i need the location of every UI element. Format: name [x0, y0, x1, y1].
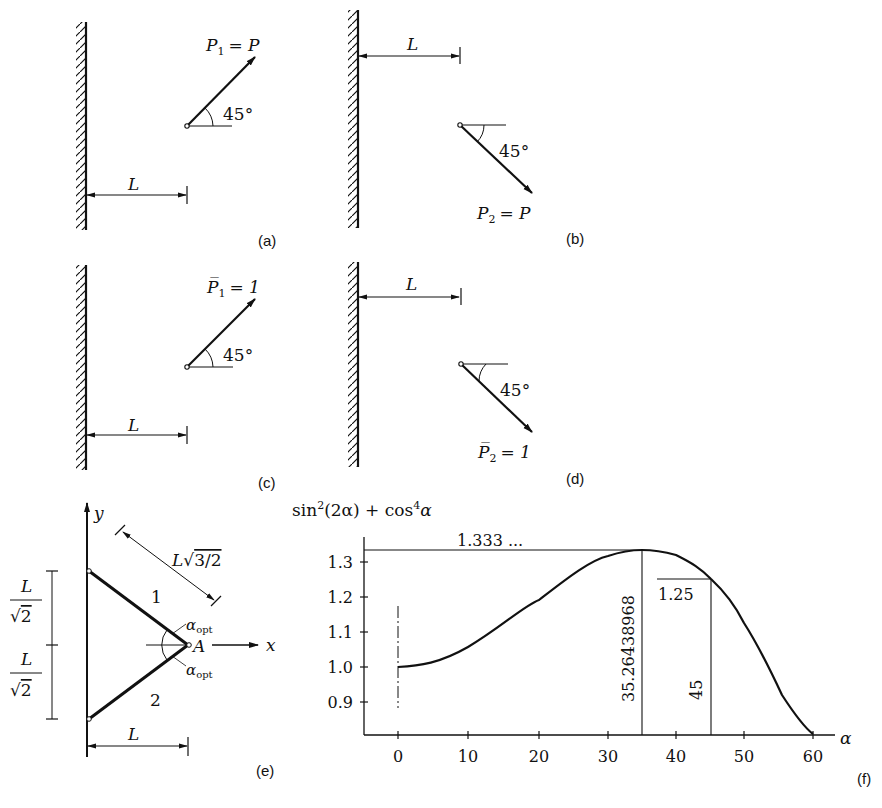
bar-2 — [89, 645, 188, 719]
y-tick-labels: 1.3 1.2 1.1 1.0 0.9 — [328, 553, 353, 712]
x-axis-label: α — [840, 728, 852, 748]
optimum-value-label: 35.26438968 — [619, 595, 638, 702]
angle-label: 45° — [500, 380, 530, 400]
svg-text:1.0: 1.0 — [328, 658, 353, 677]
alpha-45-label: 45 — [687, 680, 706, 700]
angle-label: 45° — [223, 345, 253, 365]
svg-text:1.3: 1.3 — [328, 553, 353, 572]
svg-text:30: 30 — [598, 747, 618, 766]
chart-title: sin2(2α) + cos4α — [292, 499, 432, 520]
svg-text:1.2: 1.2 — [328, 588, 353, 607]
support-node — [87, 717, 92, 722]
wall-icon — [348, 262, 358, 467]
max-value-label: 1.333 ... — [457, 531, 523, 550]
y-axis-label: y — [93, 503, 104, 523]
panel-d: L 45° P̅2= 1 (d) — [348, 262, 584, 487]
node-a-label: A — [191, 636, 205, 656]
half-height-upper: L √2 — [10, 576, 42, 626]
force-label: P2= P — [476, 203, 531, 226]
x-axis-label: x — [266, 635, 276, 655]
force-label: P̅1= 1 — [206, 277, 260, 300]
svg-text:20: 20 — [529, 747, 549, 766]
svg-text:0: 0 — [393, 747, 403, 766]
panel-f-chart: sin2(2α) + cos4α α 1.3 1.2 1.1 1.0 0.9 — [292, 499, 871, 787]
svg-text:L: L — [20, 649, 32, 669]
support-node — [87, 569, 92, 574]
bar-2-label: 2 — [150, 690, 161, 710]
force-label: P1= P — [205, 35, 260, 58]
panel-caption: (f) — [857, 770, 871, 787]
panel-caption: (d) — [566, 470, 584, 487]
value-1-25-label: 1.25 — [658, 585, 694, 604]
x-tick-labels: 0 10 20 30 40 50 60 — [393, 747, 823, 766]
panel-caption: (b) — [566, 230, 584, 247]
diagonal-dimension-label: L√3/2 — [171, 550, 222, 570]
svg-text:40: 40 — [666, 747, 686, 766]
angle-label: 45° — [223, 104, 253, 124]
svg-text:0.9: 0.9 — [328, 693, 353, 712]
panel-b: L 45° P2= P (b) — [348, 10, 584, 247]
wall-icon — [348, 10, 358, 228]
svg-text:L: L — [20, 576, 32, 596]
alpha-opt-upper: αopt — [186, 616, 213, 635]
width-dimension-label: L — [127, 724, 139, 744]
wall-icon — [76, 22, 86, 230]
panel-caption: (e) — [256, 762, 274, 779]
angle-label: 45° — [499, 141, 529, 161]
half-height-lower: L √2 — [10, 649, 42, 700]
panel-a: P1= P 45° L (a) — [76, 22, 276, 249]
bar-1-label: 1 — [151, 587, 162, 607]
wall-icon — [76, 265, 86, 470]
figure-canvas: P1= P 45° L (a) L 45° P2= P (b) — [0, 0, 882, 808]
curve-series — [398, 550, 813, 734]
alpha-opt-lower: αopt — [186, 661, 213, 680]
dimension-label: L — [405, 274, 417, 294]
svg-text:√2: √2 — [10, 606, 32, 626]
bar-1 — [89, 571, 188, 645]
panel-e: y 1 2 αopt αopt A x L√3/2 L √2 — [10, 503, 276, 779]
svg-text:50: 50 — [734, 747, 754, 766]
svg-text:60: 60 — [803, 747, 823, 766]
dimension-label: L — [127, 415, 139, 435]
svg-text:1.1: 1.1 — [328, 623, 353, 642]
panel-caption: (c) — [258, 474, 276, 491]
svg-text:√2: √2 — [10, 680, 32, 700]
dimension-label: L — [406, 34, 418, 54]
panel-caption: (a) — [258, 232, 276, 249]
dimension-label: L — [127, 174, 139, 194]
svg-text:10: 10 — [458, 747, 478, 766]
node-a — [187, 643, 192, 648]
force-label: P̅2= 1 — [477, 442, 531, 465]
panel-c: P̅1= 1 45° L (c) — [76, 265, 276, 491]
